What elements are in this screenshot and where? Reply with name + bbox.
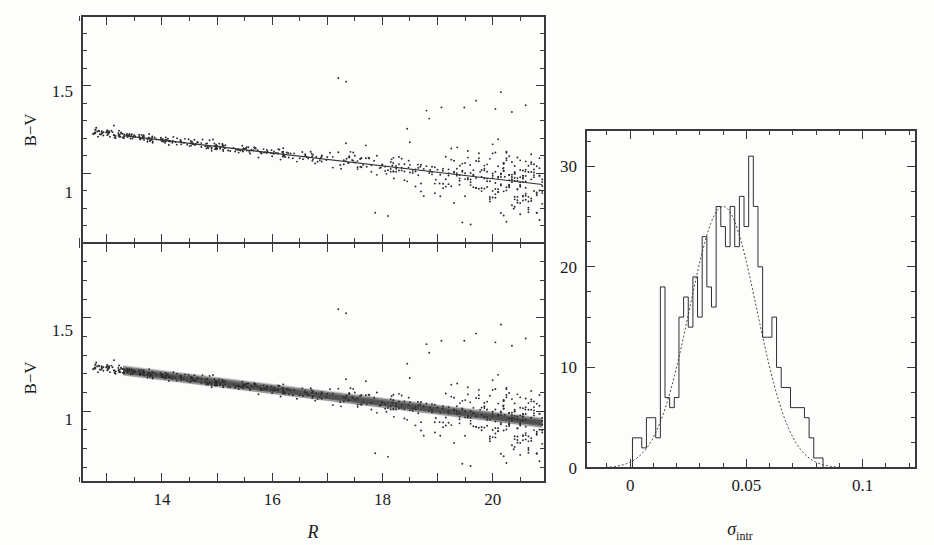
scatter-point xyxy=(479,171,481,173)
scatter-point xyxy=(390,171,392,173)
scatter-point xyxy=(386,173,388,175)
scatter-point xyxy=(186,144,188,146)
bootstrap-fit-line xyxy=(123,375,542,427)
scatter-point xyxy=(281,151,283,153)
scatter-point xyxy=(142,371,144,373)
scatter-point xyxy=(514,402,516,404)
scatter-point xyxy=(508,422,510,424)
scatter-point xyxy=(514,435,516,437)
scatter-point xyxy=(415,171,417,173)
scatter-point xyxy=(180,379,182,381)
scatter-point xyxy=(343,401,345,403)
scatter-point xyxy=(530,200,532,202)
scatter-point xyxy=(497,430,499,432)
scatter-point xyxy=(494,409,496,411)
scatter-point xyxy=(492,143,494,145)
scatter-point xyxy=(286,152,288,154)
scatter-point xyxy=(310,151,312,153)
scatter-point xyxy=(503,399,505,401)
scatter-point xyxy=(409,409,411,411)
scatter-point xyxy=(437,169,439,171)
scatter-point xyxy=(541,192,543,194)
scatter-point xyxy=(348,393,350,395)
scatter-point xyxy=(321,392,323,394)
scatter-point xyxy=(206,142,208,144)
scatter-point xyxy=(406,419,408,421)
scatter-point xyxy=(525,434,527,436)
scatter-point xyxy=(343,396,345,398)
sigma-subscript: intr xyxy=(736,529,753,543)
scatter-point xyxy=(519,425,521,427)
scatter-point xyxy=(431,173,433,175)
scatter-point xyxy=(398,393,400,395)
scatter-point xyxy=(246,386,248,388)
scatter-point xyxy=(522,175,524,177)
scatter-point xyxy=(118,136,120,138)
ytick-label-hist-2: 20 xyxy=(560,258,577,277)
scatter-point xyxy=(533,176,535,178)
scatter-point xyxy=(409,172,411,174)
scatter-point xyxy=(218,143,220,145)
ytick-label-hist-1: 10 xyxy=(560,358,577,377)
scatter-point xyxy=(253,382,255,384)
scatter-point xyxy=(130,138,132,140)
scatter-point xyxy=(533,169,535,171)
scatter-point xyxy=(442,408,444,410)
scatter-point xyxy=(307,394,309,396)
scatter-point xyxy=(317,398,319,400)
scatter-point xyxy=(398,156,400,158)
scatter-point xyxy=(494,152,496,154)
scatter-point xyxy=(114,372,116,374)
scatter-point xyxy=(524,408,526,410)
scatter-point xyxy=(346,158,348,160)
scatter-point xyxy=(227,386,229,388)
scatter-point xyxy=(314,400,316,402)
scatter-point xyxy=(511,161,513,163)
scatter-point xyxy=(365,157,367,159)
scatter-point xyxy=(139,139,141,141)
scatter-point xyxy=(514,172,516,174)
bootstrap-fit-line xyxy=(123,371,542,423)
scatter-point xyxy=(164,378,166,380)
scatter-point xyxy=(440,340,442,342)
scatter-point xyxy=(431,403,433,405)
scatter-point xyxy=(148,372,150,374)
scatter-point xyxy=(101,131,103,133)
scatter-point xyxy=(470,184,472,186)
scatter-point xyxy=(147,141,149,143)
scatter-point xyxy=(470,224,472,226)
scatter-point xyxy=(502,405,504,407)
scatter-point xyxy=(409,377,411,379)
scatter-point xyxy=(530,409,532,411)
scatter-point xyxy=(541,424,543,426)
scatter-point xyxy=(505,189,507,191)
scatter-point xyxy=(461,409,463,411)
scatter-point xyxy=(539,157,541,159)
scatter-point xyxy=(357,168,359,170)
scatter-point xyxy=(489,440,491,442)
scatter-point xyxy=(337,77,339,79)
scatter-point xyxy=(525,175,527,177)
scatter-point xyxy=(148,368,150,370)
scatter-point xyxy=(500,453,502,455)
scatter-point xyxy=(492,197,494,199)
scatter-point xyxy=(261,153,263,155)
scatter-point xyxy=(450,396,452,398)
scatter-point xyxy=(448,406,450,408)
scatter-point xyxy=(500,323,502,325)
scatter-point xyxy=(315,156,317,158)
scatter-point xyxy=(412,172,414,174)
scatter-point xyxy=(95,362,97,364)
scatter-point xyxy=(478,389,480,391)
scatter-point xyxy=(431,411,433,413)
scatter-point xyxy=(99,133,101,135)
scatter-point xyxy=(99,368,101,370)
panel-top-left: 1.5 1 B−V xyxy=(21,16,545,243)
scatter-point xyxy=(492,389,494,391)
scatter-point xyxy=(384,403,386,405)
scatter-point xyxy=(439,435,441,437)
axis-frame-top xyxy=(79,16,545,243)
scatter-point xyxy=(448,410,450,412)
scatter-point xyxy=(362,401,364,403)
scatter-point xyxy=(332,167,334,169)
